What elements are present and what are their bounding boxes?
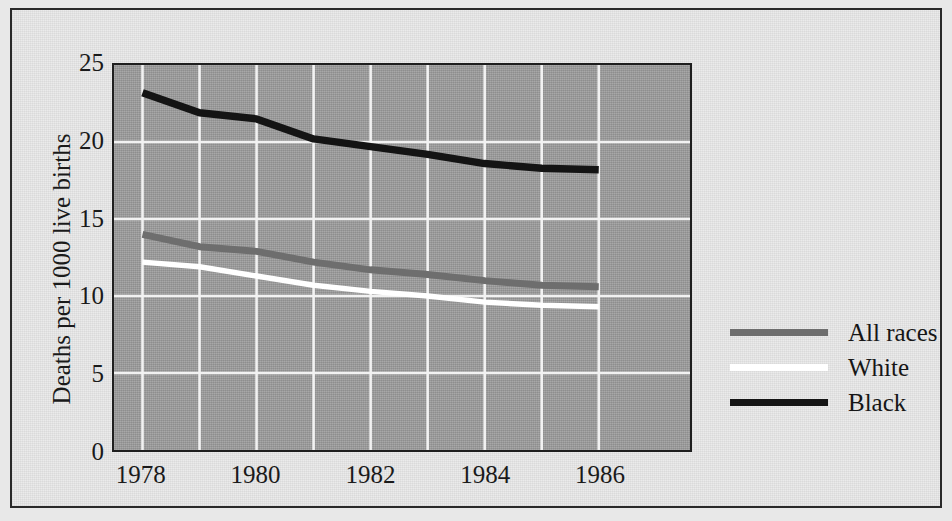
legend: All racesWhiteBlack — [730, 315, 940, 420]
x-tick-label: 1986 — [550, 462, 650, 487]
x-tick-label: 1982 — [320, 462, 420, 487]
series-line-black — [143, 93, 599, 170]
legend-label: All races — [848, 320, 938, 345]
x-tick-label: 1978 — [91, 462, 191, 487]
y-tick-label: 25 — [58, 50, 104, 75]
legend-item: White — [730, 350, 940, 385]
legend-swatch — [730, 364, 828, 371]
figure-frame: Deaths per 1000 live births 2520151050 1… — [10, 8, 942, 508]
legend-swatch — [730, 399, 828, 406]
figure-canvas: Deaths per 1000 live births 2520151050 1… — [0, 0, 952, 521]
x-tick-label: 1980 — [206, 462, 306, 487]
y-tick-label: 5 — [58, 361, 104, 386]
series-line-all-races — [143, 234, 599, 286]
y-tick-label: 10 — [58, 283, 104, 308]
legend-label: White — [848, 355, 909, 380]
legend-label: Black — [848, 390, 906, 415]
data-series-group — [114, 65, 690, 450]
y-tick-label: 0 — [58, 439, 104, 464]
plot-area — [112, 63, 692, 452]
legend-swatch — [730, 329, 828, 336]
legend-item: All races — [730, 315, 940, 350]
legend-item: Black — [730, 385, 940, 420]
y-axis-title: Deaths per 1000 live births — [48, 59, 76, 479]
y-tick-label: 20 — [58, 128, 104, 153]
y-tick-label: 15 — [58, 206, 104, 231]
x-tick-label: 1984 — [435, 462, 535, 487]
